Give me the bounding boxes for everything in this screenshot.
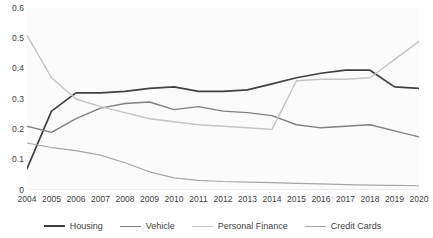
y-axis-tick-label: 0.5 bbox=[0, 34, 24, 43]
legend-item-label: Vehicle bbox=[146, 221, 175, 231]
legend-line-icon bbox=[305, 226, 326, 227]
legend-item-credit-cards[interactable]: Credit Cards bbox=[305, 221, 382, 231]
legend-item-label: Personal Finance bbox=[218, 221, 288, 231]
series-line-vehicle bbox=[27, 102, 419, 137]
series-line-credit-cards bbox=[27, 143, 419, 186]
y-axis-tick-label: 0.1 bbox=[0, 155, 24, 164]
y-axis-tick-label: 0.6 bbox=[0, 4, 24, 13]
plot-area bbox=[27, 8, 419, 190]
legend-item-housing[interactable]: Housing bbox=[44, 221, 103, 231]
legend-item-vehicle[interactable]: Vehicle bbox=[120, 221, 175, 231]
legend-item-personal-finance[interactable]: Personal Finance bbox=[192, 221, 288, 231]
legend-item-label: Housing bbox=[70, 221, 103, 231]
y-axis: 00.10.20.30.40.50.6 bbox=[0, 0, 24, 198]
series-line-housing bbox=[27, 70, 419, 169]
legend-line-icon bbox=[44, 225, 65, 227]
legend-line-icon bbox=[120, 226, 141, 227]
legend-line-icon bbox=[192, 226, 213, 227]
legend-item-label: Credit Cards bbox=[331, 221, 382, 231]
y-axis-tick-label: 0.2 bbox=[0, 125, 24, 134]
y-axis-tick-label: 0.4 bbox=[0, 64, 24, 73]
plot-svg bbox=[27, 8, 419, 190]
chart-legend: HousingVehiclePersonal FinanceCredit Car… bbox=[0, 218, 425, 234]
y-axis-tick-label: 0.3 bbox=[0, 95, 24, 104]
x-axis-tick-label: 2020 bbox=[403, 194, 433, 205]
x-axis: 2004200520062007200820092010201120122013… bbox=[27, 194, 419, 208]
